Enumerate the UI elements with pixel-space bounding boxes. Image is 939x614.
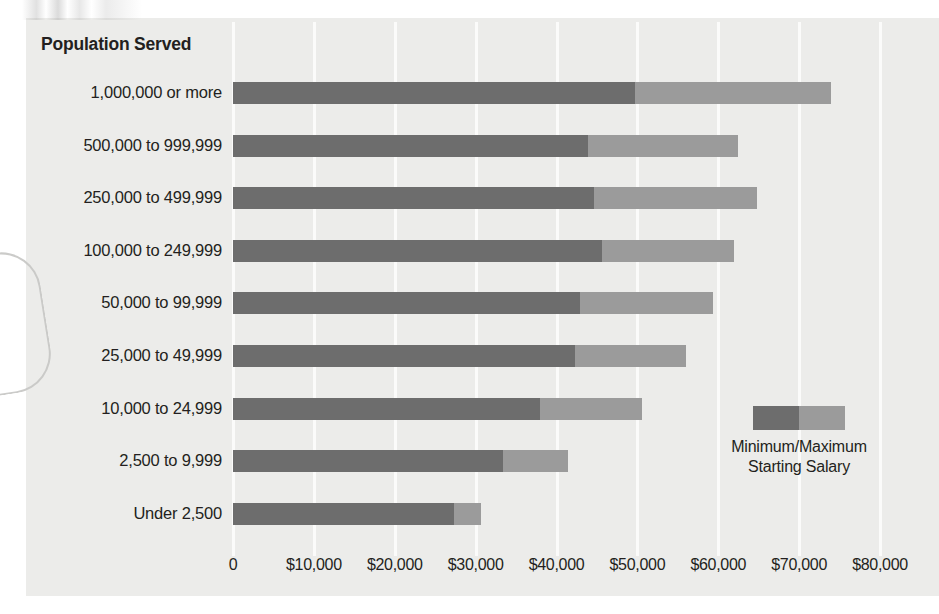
bar-segment-maximum — [575, 345, 686, 367]
scan-artifact-bottom — [26, 596, 939, 614]
x-axis-tick-labels: 0$10,000$20,000$30,000$40,000$50,000$60,… — [0, 556, 939, 586]
bar-row — [233, 187, 757, 209]
legend-label: Minimum/Maximum Starting Salary — [706, 437, 892, 477]
bar-segment-maximum — [503, 450, 568, 472]
y-axis-label: 250,000 to 499,999 — [12, 188, 222, 207]
legend-label-line-1: Minimum/Maximum — [706, 437, 892, 457]
x-axis-tick-label: $70,000 — [771, 556, 827, 574]
y-axis-label: 2,500 to 9,999 — [12, 451, 222, 470]
x-axis-tick-label: $80,000 — [852, 556, 908, 574]
bar-segment-minimum — [233, 135, 588, 157]
legend-label-line-2: Starting Salary — [706, 457, 892, 477]
bar-segment-minimum — [233, 450, 503, 472]
x-axis-tick-label: $20,000 — [367, 556, 423, 574]
bar-row — [233, 82, 831, 104]
bar-row — [233, 135, 738, 157]
bar-segment-maximum — [580, 292, 713, 314]
legend-swatch-minimum — [753, 406, 799, 430]
y-axis-label: 25,000 to 49,999 — [12, 346, 222, 365]
bar-row — [233, 503, 481, 525]
x-axis-tick-label: $60,000 — [690, 556, 746, 574]
bar-row — [233, 292, 713, 314]
x-axis-tick-label: $10,000 — [286, 556, 342, 574]
x-axis-tick-label: $30,000 — [448, 556, 504, 574]
bar-segment-minimum — [233, 398, 540, 420]
bar-segment-maximum — [540, 398, 642, 420]
y-axis-label: Under 2,500 — [12, 504, 222, 523]
y-axis-label: 1,000,000 or more — [12, 83, 222, 102]
y-axis-label: 10,000 to 24,999 — [12, 399, 222, 418]
x-axis-tick-label: 0 — [229, 556, 238, 574]
bar-segment-minimum — [233, 503, 454, 525]
bar-segment-minimum — [233, 240, 602, 262]
y-axis-label: 500,000 to 999,999 — [12, 136, 222, 155]
bar-row — [233, 345, 686, 367]
y-axis-label: 50,000 to 99,999 — [12, 293, 222, 312]
legend-swatch-maximum — [799, 406, 845, 430]
bar-segment-minimum — [233, 82, 635, 104]
bar-segment-maximum — [602, 240, 735, 262]
bar-segment-maximum — [594, 187, 757, 209]
bar-segment-minimum — [233, 345, 575, 367]
bar-row — [233, 450, 568, 472]
bar-segment-minimum — [233, 187, 594, 209]
y-axis-label: 100,000 to 249,999 — [12, 241, 222, 260]
legend-swatch-group — [753, 406, 845, 430]
bar-segment-minimum — [233, 292, 580, 314]
legend: Minimum/Maximum Starting Salary — [706, 406, 892, 477]
bar-segment-maximum — [588, 135, 738, 157]
chart-page: Population Served 1,000,000 or more500,0… — [0, 0, 939, 614]
y-axis-labels: 1,000,000 or more500,000 to 999,999250,0… — [10, 0, 222, 614]
bar-segment-maximum — [454, 503, 481, 525]
bar-row — [233, 240, 734, 262]
x-axis-tick-label: $40,000 — [529, 556, 585, 574]
x-axis-tick-label: $50,000 — [610, 556, 666, 574]
bar-segment-maximum — [635, 82, 832, 104]
bar-row — [233, 398, 642, 420]
